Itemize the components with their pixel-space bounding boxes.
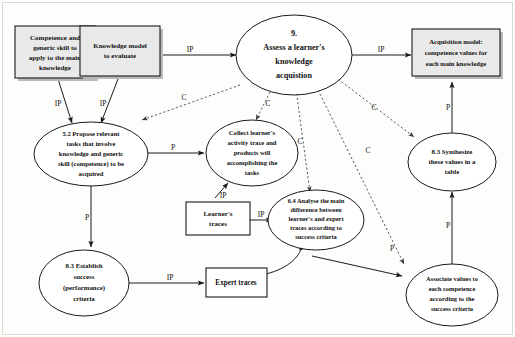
- propose-tasks-line-1: 5.2 Propose relevant: [62, 130, 120, 137]
- associate-values-line-4: success criteria: [431, 305, 474, 312]
- propose-tasks-line-2: tasks that involve: [66, 140, 115, 147]
- propose-tasks-line-4: skill (competence) to be: [58, 160, 124, 168]
- establish-criteria-line-2: success: [74, 273, 95, 280]
- collect-trace-line-1: Collect learner's: [229, 129, 276, 136]
- edge-label-collect-to-learners-traces: IP: [220, 191, 227, 200]
- synthesize-values-line-3: table: [445, 168, 459, 175]
- analyse-difference-line-1: 6.4 Analyse the main: [288, 197, 345, 204]
- node-expert-traces-box[interactable]: Expert traces: [206, 268, 267, 297]
- acquisition-model-box-line-3: each main knowledge: [426, 60, 487, 67]
- collect-trace-line-2: activity trace and: [227, 139, 276, 146]
- link-assess-to-collect-c: C: [256, 88, 272, 120]
- competence-skill-box-line-2: generic skill to: [33, 44, 77, 52]
- acquisition-model-box-line-2: competence values for: [425, 49, 487, 56]
- knowledge-model-box-line-1: Knowledge model: [93, 42, 147, 50]
- synthesize-values-line-1: 8.3 Synthesize: [432, 148, 473, 155]
- edge-label-knowledge-model-to-propose: IP: [100, 99, 107, 108]
- assess-ellipse-line-3: knowledge: [275, 57, 313, 66]
- propose-tasks-line-3: knowledge and generic: [59, 150, 124, 157]
- node-assess-ellipse[interactable]: 9. Assess a learner's knowledge acquisti…: [236, 15, 352, 95]
- knowledge-model-box-line-2: to evaluate: [104, 52, 136, 60]
- edge-label-knowledge-model-to-assess: IP: [187, 45, 194, 54]
- propose-tasks-line-5: acquired: [79, 170, 104, 177]
- synthesize-values-line-2: these values in a: [428, 158, 476, 165]
- edge-label-learners-traces-to-analyse: IP: [258, 210, 265, 219]
- edge-label-assess-to-collect: C: [265, 99, 270, 108]
- edge-label-assess-to-synthesize: C: [371, 103, 376, 112]
- link-collect-to-learners-traces: IP: [215, 183, 228, 200]
- collect-trace-line-4: accomplishing the: [227, 159, 278, 166]
- edge-label-assess-to-propose: C: [181, 93, 186, 102]
- edge-label-synthesize-to-acquisition-model: P: [446, 103, 450, 112]
- acquisition-model-box-line-1: Acquisition model:: [429, 38, 482, 45]
- analyse-difference-line-5: success criteria: [295, 233, 337, 240]
- analyse-difference-line-3: learner's and expert: [288, 215, 344, 222]
- link-assess-to-acquisition-model: IP: [352, 45, 411, 55]
- link-knowledge-model-to-propose: IP: [100, 79, 118, 123]
- edge-label-associate-to-synthesize: P: [446, 221, 450, 230]
- link-assess-to-synthesize-c: C: [338, 79, 414, 137]
- edge-label-analyse-to-associate: P: [390, 244, 394, 253]
- link-assess-to-propose-c: C: [142, 85, 240, 120]
- edge-label-competence-to-propose: IP: [55, 99, 62, 108]
- link-establish-to-expert-traces: IP: [128, 273, 204, 283]
- associate-values-line-2: each competence: [429, 285, 476, 292]
- link-competence-to-propose: IP: [55, 79, 72, 123]
- node-knowledge-model-box[interactable]: Knowledge model to evaluate: [80, 26, 163, 79]
- associate-values-line-1: Associate values to: [426, 275, 478, 282]
- learners-traces-box-line-1: Learner's: [203, 210, 232, 218]
- knowledge-acquisition-diagram: IP IP IP IP P P IP: [0, 0, 515, 337]
- edge-label-propose-to-collect: P: [171, 143, 175, 152]
- node-establish-criteria-ellipse[interactable]: 8.3 Establish success (performance) crit…: [39, 250, 129, 316]
- establish-criteria-line-4: criteria: [73, 295, 95, 302]
- collect-trace-line-3: products will: [234, 149, 271, 156]
- edge-label-assess-to-analyse: C: [297, 137, 302, 146]
- link-knowledge-model-to-assess: IP: [160, 45, 236, 55]
- expert-traces-box-line-1: Expert traces: [215, 279, 257, 287]
- competence-skill-box-line-4: knowledge: [39, 64, 71, 72]
- learners-traces-box-line-2: traces: [209, 220, 227, 228]
- node-acquisition-model-box[interactable]: Acquisition model: competence values for…: [412, 29, 503, 79]
- node-learners-traces-box[interactable]: Learner's traces: [186, 202, 250, 235]
- node-collect-trace-ellipse[interactable]: Collect learner's activity trace and pro…: [206, 120, 298, 186]
- competence-skill-box-line-3: apply to the main: [29, 54, 81, 62]
- edge-label-propose-to-establish: P: [85, 213, 89, 222]
- edge-label-assess-to-acquisition-model: IP: [378, 45, 385, 54]
- assess-ellipse-line-1: 9.: [291, 29, 297, 38]
- competence-skill-box-line-1: Competence and: [30, 34, 80, 42]
- analyse-difference-line-4: traces according to: [290, 224, 342, 231]
- assess-ellipse-line-2: Assess a learner's: [263, 43, 324, 52]
- link-assess-to-analyse-c: C: [296, 89, 310, 192]
- node-associate-values-ellipse[interactable]: Associate values to each competence acco…: [406, 264, 498, 326]
- link-associate-to-synthesize: P: [446, 192, 452, 265]
- establish-criteria-line-3: (performance): [63, 284, 105, 292]
- link-expert-traces-to-analyse: [266, 248, 301, 274]
- edge-label-assess-to-associate: C: [365, 146, 370, 155]
- associate-values-line-3: according to the: [430, 295, 475, 302]
- diagram-canvas: IP IP IP IP P P IP: [0, 0, 515, 337]
- assess-ellipse-line-4: acquistion: [276, 71, 312, 80]
- establish-criteria-line-1: 8.3 Establish: [65, 262, 102, 269]
- link-propose-to-establish: P: [85, 185, 91, 247]
- node-propose-tasks-ellipse[interactable]: 5.2 Propose relevant tasks that involve …: [34, 122, 148, 186]
- analyse-difference-line-2: difference between: [290, 206, 342, 213]
- node-analyse-difference-ellipse[interactable]: 6.4 Analyse the main difference between …: [268, 190, 364, 250]
- link-synthesize-to-acquisition-model: P: [446, 82, 452, 133]
- node-synthesize-values-ellipse[interactable]: 8.3 Synthesize these values in a table: [408, 133, 496, 191]
- collect-trace-line-5: tasks: [245, 169, 260, 176]
- edge-label-establish-to-expert-traces: IP: [167, 273, 174, 282]
